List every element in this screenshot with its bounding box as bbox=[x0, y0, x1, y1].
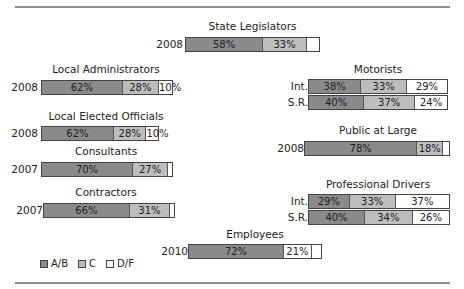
bar-row: 2008 62% 28% 10% bbox=[0, 80, 175, 95]
segment-df: 10% bbox=[146, 127, 158, 140]
legend-swatch-df bbox=[106, 260, 114, 268]
segment-df bbox=[307, 38, 319, 51]
segment-c: 33% bbox=[263, 38, 307, 51]
legend-item-df: D/F bbox=[106, 258, 134, 269]
legend-swatch-c bbox=[78, 260, 86, 268]
row-label: Int. bbox=[291, 194, 308, 209]
legend-item-ab: A/B bbox=[40, 258, 68, 269]
group-title-motorists: Motorists bbox=[308, 63, 448, 75]
row-label: S.R. bbox=[288, 210, 308, 225]
bar-row: S.R. 40% 34% 26% bbox=[280, 210, 450, 225]
stacked-bar: 78% 18% bbox=[304, 141, 450, 156]
stacked-bar: 62% 28% 10% bbox=[41, 80, 173, 95]
bar-row: 2008 58% 33% bbox=[150, 37, 320, 52]
legend-swatch-ab bbox=[40, 260, 48, 268]
row-label: 2008 bbox=[156, 37, 183, 52]
segment-c: 31% bbox=[130, 204, 170, 217]
stacked-bar: 40% 34% 26% bbox=[308, 210, 450, 225]
segment-ab: 29% bbox=[309, 195, 350, 208]
bar-row: 2007 66% 31% bbox=[0, 203, 175, 218]
row-label: 2008 bbox=[11, 80, 38, 95]
stacked-bar: 38% 33% 29% bbox=[308, 79, 448, 94]
group-title-public-at-large: Public at Large bbox=[308, 124, 448, 136]
row-label: Int. bbox=[291, 79, 308, 94]
segment-c: 27% bbox=[133, 163, 168, 176]
segment-df: 37% bbox=[396, 195, 449, 208]
row-label: 2008 bbox=[11, 126, 38, 141]
group-title-local-administrators: Local Administrators bbox=[40, 63, 172, 75]
stacked-bar: 66% 31% bbox=[43, 203, 175, 218]
group-title-consultants: Consultants bbox=[40, 145, 172, 157]
segment-c: 33% bbox=[350, 195, 396, 208]
row-label: 2008 bbox=[277, 141, 304, 156]
bar-row: Int. 38% 33% 29% bbox=[280, 79, 450, 94]
bar-row: 2008 62% 28% 10% bbox=[0, 126, 175, 141]
segment-c: 21% bbox=[284, 245, 312, 258]
stacked-bar: 72% 21% bbox=[188, 244, 322, 259]
row-label: S.R. bbox=[288, 95, 308, 110]
segment-ab: 38% bbox=[309, 80, 361, 93]
segment-ab: 62% bbox=[42, 127, 114, 140]
group-title-state-legislators: State Legislators bbox=[185, 20, 320, 32]
stacked-bar: 70% 27% bbox=[41, 162, 173, 177]
segment-c: 28% bbox=[123, 81, 159, 94]
segment-c: 37% bbox=[364, 96, 415, 109]
group-title-employees: Employees bbox=[188, 228, 322, 240]
stacked-bar: 40% 37% 24% bbox=[308, 95, 448, 110]
bar-row: 2008 78% 18% bbox=[270, 141, 450, 156]
segment-ab: 62% bbox=[42, 81, 123, 94]
segment-ab: 66% bbox=[44, 204, 130, 217]
segment-ab: 78% bbox=[305, 142, 417, 155]
segment-df: 10% bbox=[159, 81, 172, 94]
legend-item-c: C bbox=[78, 258, 96, 269]
segment-ab: 58% bbox=[186, 38, 263, 51]
stacked-bar: 62% 28% 10% bbox=[41, 126, 159, 141]
bottom-rule bbox=[15, 282, 450, 284]
group-title-contractors: Contractors bbox=[40, 186, 172, 198]
segment-df bbox=[168, 163, 172, 176]
stacked-bar: 29% 33% 37% bbox=[308, 194, 450, 209]
segment-df bbox=[170, 204, 174, 217]
segment-ab: 40% bbox=[309, 96, 364, 109]
segment-c: 34% bbox=[365, 211, 413, 224]
group-title-professional-drivers: Professional Drivers bbox=[308, 178, 448, 190]
row-label: 2007 bbox=[11, 162, 38, 177]
bar-row: S.R. 40% 37% 24% bbox=[280, 95, 450, 110]
segment-df: 24% bbox=[415, 96, 447, 109]
segment-ab: 40% bbox=[309, 211, 365, 224]
segment-df bbox=[312, 245, 321, 258]
group-title-local-elected-officials: Local Elected Officials bbox=[40, 110, 172, 122]
bar-row: 2007 70% 27% bbox=[0, 162, 175, 177]
legend: A/B C D/F bbox=[40, 258, 134, 269]
segment-c: 28% bbox=[114, 127, 146, 140]
segment-ab: 70% bbox=[42, 163, 133, 176]
row-label: 2007 bbox=[16, 203, 43, 218]
segment-df: 26% bbox=[413, 211, 449, 224]
legend-label: D/F bbox=[117, 258, 134, 269]
top-rule bbox=[15, 6, 450, 8]
legend-label: C bbox=[89, 258, 96, 269]
segment-ab: 72% bbox=[189, 245, 284, 258]
segment-df: 29% bbox=[407, 80, 447, 93]
segment-c: 18% bbox=[417, 142, 443, 155]
bar-row: 2010 72% 21% bbox=[150, 244, 325, 259]
stacked-bar: 58% 33% bbox=[185, 37, 320, 52]
bar-row: Int. 29% 33% 37% bbox=[280, 194, 450, 209]
segment-c: 33% bbox=[361, 80, 407, 93]
legend-label: A/B bbox=[51, 258, 68, 269]
row-label: 2010 bbox=[161, 244, 188, 259]
segment-df bbox=[443, 142, 449, 155]
